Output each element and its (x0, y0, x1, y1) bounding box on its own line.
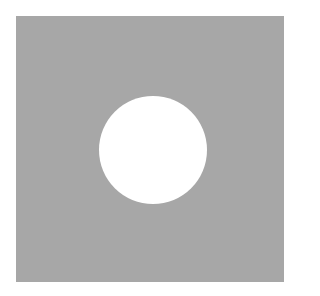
white-circle (99, 96, 207, 204)
